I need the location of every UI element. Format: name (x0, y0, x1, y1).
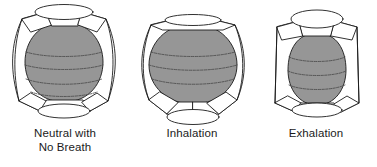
figure-neutral-graphic (0, 0, 130, 126)
diaphragm-ellipse-inhalation (167, 110, 219, 125)
figure-exhalation-graphic (255, 0, 377, 126)
figure-inhalation: Inhalation (127, 0, 257, 167)
figure-inhalation-graphic (127, 0, 257, 126)
caption-exhalation: Exhalation (255, 126, 377, 140)
diaphragm-ellipse-neutral (38, 104, 90, 118)
caption-neutral-with-no-breath: Neutral with No Breath (0, 126, 130, 154)
top-opening-ellipse-exhalation (291, 10, 343, 28)
figure-exhalation: Exhalation (255, 0, 377, 167)
lung-body-neutral (25, 22, 103, 102)
top-opening-ellipse-neutral (35, 5, 93, 20)
caption-inhalation: Inhalation (127, 126, 257, 140)
breathing-diagram: Neutral with No Breath (0, 0, 377, 167)
lung-body-exhalation (288, 33, 346, 105)
top-opening-ellipse-inhalation (165, 15, 221, 26)
lung-body-inhalation (149, 24, 237, 104)
diaphragm-ellipse-exhalation (292, 103, 342, 117)
figure-neutral-with-no-breath: Neutral with No Breath (0, 0, 130, 167)
